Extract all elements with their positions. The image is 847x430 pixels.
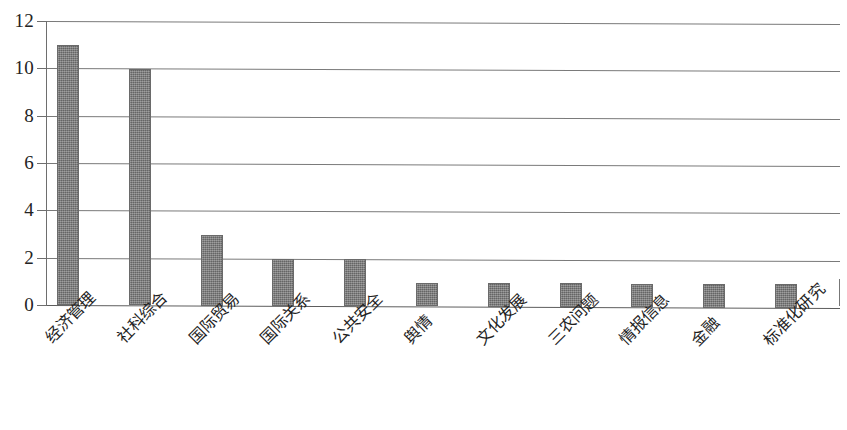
y-tick-12 [37, 21, 46, 22]
x-axis-label-10: 标准化研究 [760, 280, 829, 349]
x-axis-label-5: 舆情 [401, 312, 436, 347]
x-axis-label-1: 社科综合 [113, 289, 171, 347]
y-tick-8 [37, 116, 46, 117]
y-tick-4 [37, 210, 46, 211]
x-axis-label-6: 文化发展 [472, 290, 530, 348]
x-axis-label-2: 国际贸易 [185, 289, 243, 347]
x-axis-label-8: 情报信息 [616, 291, 674, 349]
x-axis-label-7: 三农问题 [544, 290, 602, 348]
y-tick-6 [37, 163, 46, 164]
x-axis-label-0: 经济管理 [42, 288, 100, 346]
x-axis-category-labels: 经济管理社科综合国际贸易国际关系公共安全舆情文化发展三农问题情报信息金融标准化研… [0, 0, 847, 430]
bar-chart: 024681012 经济管理社科综合国际贸易国际关系公共安全舆情文化发展三农问题… [0, 0, 847, 430]
y-tick-0 [37, 305, 46, 306]
x-axis-label-4: 公共安全 [329, 290, 387, 348]
x-axis-label-9: 金融 [688, 314, 723, 349]
x-axis-label-3: 国际关系 [257, 289, 315, 347]
y-tick-2 [37, 258, 46, 259]
y-tick-10 [37, 68, 46, 69]
